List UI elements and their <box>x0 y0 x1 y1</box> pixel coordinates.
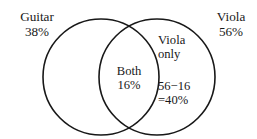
viola-set-label: Viola 56% <box>209 10 253 40</box>
venn-diagram-figure: Guitar 38% Viola 56% Both 16% Viola only… <box>0 0 257 139</box>
viola-only-calculation: 56−16 =40% <box>158 79 216 107</box>
guitar-set-percent: 38% <box>14 25 60 40</box>
viola-set-name: Viola <box>209 10 253 25</box>
intersection-name: Both <box>108 64 150 78</box>
viola-only-line2: only <box>158 47 210 61</box>
viola-set-percent: 56% <box>209 25 253 40</box>
viola-only-calc-line1: 56−16 <box>158 79 216 93</box>
intersection-percent: 16% <box>108 78 150 92</box>
guitar-set-label: Guitar 38% <box>14 10 60 40</box>
viola-only-line1: Viola <box>158 33 210 47</box>
viola-only-calc-line2: =40% <box>158 93 216 107</box>
viola-only-label: Viola only <box>158 33 210 61</box>
guitar-set-name: Guitar <box>14 10 60 25</box>
intersection-label: Both 16% <box>108 64 150 92</box>
